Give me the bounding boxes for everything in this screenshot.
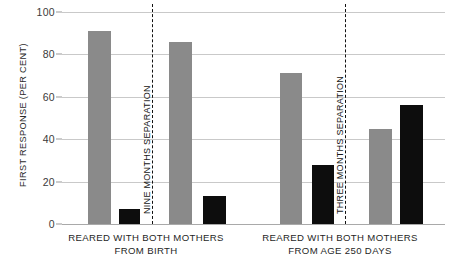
group-caption-1: REARED WITH BOTH MOTHERSFROM BIRTH	[56, 232, 236, 257]
y-tick-mark-80	[56, 54, 62, 55]
group-caption-2-line2: FROM AGE 250 DAYS	[250, 245, 430, 258]
gridline-100	[62, 12, 445, 13]
bar-4-black	[203, 196, 226, 224]
bar-5-gray	[280, 73, 302, 224]
y-tick-label-100: 100	[37, 6, 55, 18]
separator-label-1: NINE MONTHS SEPARATION	[142, 85, 152, 216]
bar-2-black	[119, 209, 140, 224]
separator-dashed-line-2	[345, 4, 346, 224]
y-tick-label-80: 80	[43, 48, 55, 60]
y-tick-mark-40	[56, 139, 62, 140]
y-tick-mark-60	[56, 96, 62, 97]
bar-chart: FIRST RESPONSE (PER CENT) 020406080100 N…	[0, 0, 449, 274]
group-caption-1-line1: REARED WITH BOTH MOTHERS	[68, 232, 224, 243]
bar-8-black	[400, 105, 423, 224]
y-tick-label-20: 20	[43, 176, 55, 188]
separator-label-2: THREE MONTHS SEPARATION	[335, 76, 345, 216]
group-caption-2-line1: REARED WITH BOTH MOTHERS	[262, 232, 418, 243]
y-tick-mark-0	[56, 224, 62, 225]
y-tick-mark-100	[56, 12, 62, 13]
y-tick-label-60: 60	[43, 91, 55, 103]
y-tick-mark-20	[56, 181, 62, 182]
bar-3-gray	[169, 42, 192, 224]
y-tick-label-40: 40	[43, 133, 55, 145]
gridline-0	[62, 224, 445, 225]
bar-7-gray	[369, 129, 392, 224]
bar-1-gray	[88, 31, 111, 224]
group-caption-1-line2: FROM BIRTH	[56, 245, 236, 258]
y-tick-label-0: 0	[49, 218, 55, 230]
group-caption-2: REARED WITH BOTH MOTHERSFROM AGE 250 DAY…	[250, 232, 430, 257]
separator-dashed-line-1	[152, 4, 153, 224]
y-axis-title: FIRST RESPONSE (PER CENT)	[18, 15, 28, 215]
plot-area: 020406080100 NINE MONTHS SEPARATIONTHREE…	[62, 12, 445, 224]
bar-6-black	[312, 165, 334, 224]
gridline-60	[62, 97, 445, 98]
gridline-80	[62, 54, 445, 55]
